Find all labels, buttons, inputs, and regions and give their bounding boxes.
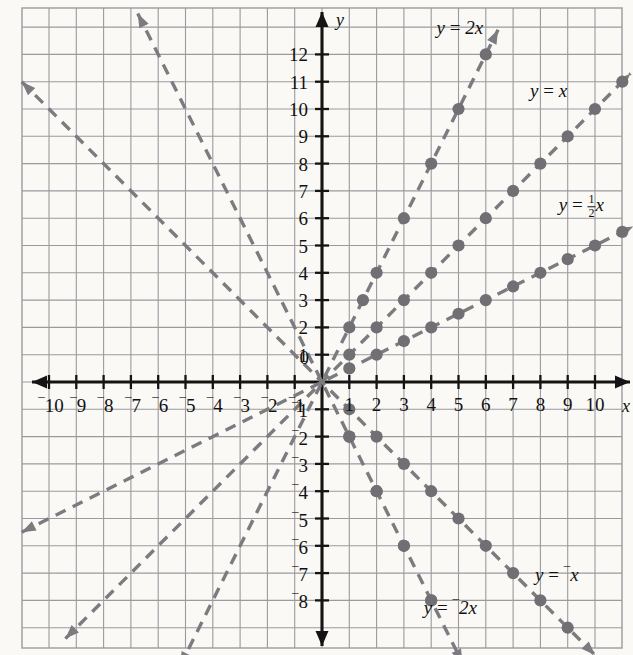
x-tick-label-6: 6 <box>481 395 491 414</box>
equation-label-2: y = 12x <box>559 195 604 220</box>
y-tick-label-3: 3 <box>299 291 309 310</box>
x-tick-label-8: 8 <box>536 395 546 414</box>
x-tick-label-neg7: –7 <box>125 393 141 414</box>
x-tick-label-neg4: –4 <box>207 393 223 414</box>
y-tick-label-neg2: –2 <box>292 426 308 447</box>
y-tick-label-8: 8 <box>299 154 309 173</box>
y-tick-label-7: 7 <box>299 181 309 200</box>
equation-label-4: y = –2x <box>424 595 477 616</box>
x-tick-label-neg5: –5 <box>180 393 196 414</box>
origin-label: 0 <box>300 348 310 367</box>
x-tick-label-1: 1 <box>345 395 355 414</box>
x-tick-label-neg2: –2 <box>261 393 277 414</box>
y-tick-label-11: 11 <box>290 72 308 91</box>
graph-canvas: –10–9–8–7–6–5–4–3–2–11234567891012111098… <box>0 0 633 655</box>
y-axis-label: y <box>336 11 344 29</box>
y-tick-label-9: 9 <box>299 127 309 146</box>
y-tick-label-neg4: –4 <box>292 481 308 502</box>
y-tick-label-5: 5 <box>299 236 309 255</box>
y-tick-label-10: 10 <box>289 100 308 119</box>
equation-label-0: y = 2x <box>437 18 484 37</box>
x-axis-label: x <box>622 397 630 415</box>
y-tick-label-neg1: –1 <box>292 399 308 420</box>
equation-label-1: y = x <box>530 80 567 99</box>
x-tick-label-neg3: –3 <box>234 393 250 414</box>
y-tick-label-neg8: –8 <box>292 590 308 611</box>
y-tick-label-6: 6 <box>299 209 309 228</box>
equation-label-3: y = –x <box>535 562 579 583</box>
y-tick-label-12: 12 <box>289 45 308 64</box>
y-tick-label-neg3: –3 <box>292 453 308 474</box>
y-tick-label-neg7: –7 <box>292 562 308 583</box>
x-tick-label-9: 9 <box>563 395 573 414</box>
x-tick-label-neg6: –6 <box>152 393 168 414</box>
x-tick-label-7: 7 <box>508 395 518 414</box>
x-tick-label-neg10: –10 <box>38 393 64 414</box>
y-tick-label-neg5: –5 <box>292 508 308 529</box>
x-tick-label-neg9: –9 <box>70 393 86 414</box>
x-tick-label-5: 5 <box>454 395 464 414</box>
y-tick-label-4: 4 <box>299 263 309 282</box>
x-tick-label-3: 3 <box>399 395 409 414</box>
x-tick-label-10: 10 <box>586 395 605 414</box>
x-tick-label-neg8: –8 <box>98 393 114 414</box>
y-tick-label-2: 2 <box>299 318 309 337</box>
x-tick-label-2: 2 <box>372 395 382 414</box>
x-tick-label-4: 4 <box>426 395 436 414</box>
y-tick-label-neg6: –6 <box>292 535 308 556</box>
